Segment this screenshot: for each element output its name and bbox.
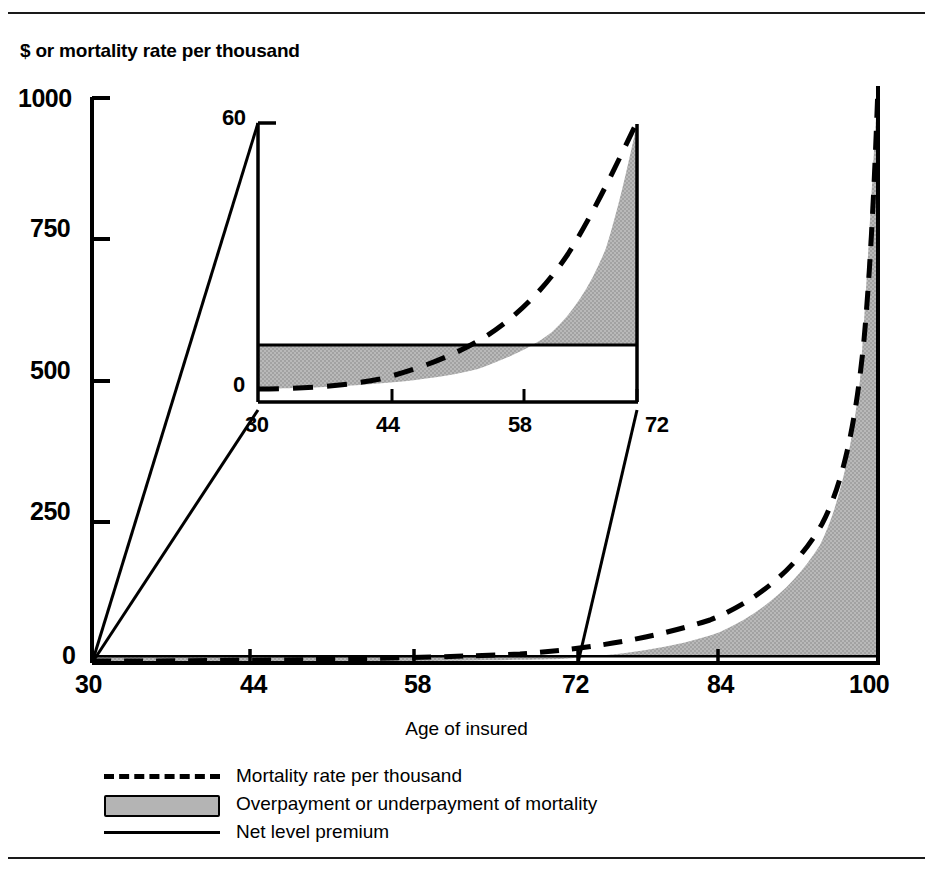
connector-top-left xyxy=(92,123,258,663)
legend-label-overpayment: Overpayment or underpayment of mortality xyxy=(236,793,597,815)
x-axis-title: Age of insured xyxy=(0,718,933,740)
inset-plot xyxy=(258,119,640,402)
gray-swatch-icon xyxy=(104,793,220,815)
solid-line-icon xyxy=(104,821,220,843)
legend-item-overpayment: Overpayment or underpayment of mortality xyxy=(104,790,664,818)
connector-bottom-left xyxy=(92,410,258,663)
dashed-line-icon xyxy=(104,765,220,787)
legend-item-net-level-premium: Net level premium xyxy=(104,818,664,846)
connector-bottom-right xyxy=(578,410,637,663)
legend-label-mortality-rate: Mortality rate per thousand xyxy=(236,765,462,787)
legend-label-net-level-premium: Net level premium xyxy=(236,821,389,843)
legend-item-mortality-rate: Mortality rate per thousand xyxy=(104,762,664,790)
plot-canvas xyxy=(0,0,933,880)
chart-legend: Mortality rate per thousand Overpayment … xyxy=(104,762,664,846)
chart-figure: $ or mortality rate per thousand 1000 75… xyxy=(0,0,933,880)
